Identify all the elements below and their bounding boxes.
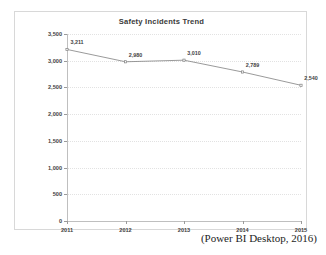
y-axis-tick-label: 2,000 [48,111,62,117]
x-axis-tick [126,221,127,224]
source-caption: (Power BI Desktop, 2016) [201,232,317,244]
x-axis-tick [243,221,244,224]
y-axis-tick-label: 1,000 [48,165,62,171]
series-marker [300,84,302,86]
series-marker [183,59,185,61]
chart-title: Safety Incidents Trend [15,17,308,26]
plot-area: 05001,0001,5002,0002,5003,0003,500 20112… [67,34,301,221]
x-axis-tick-label: 2013 [178,227,190,233]
figure: Safety Incidents Trend 05001,0001,5002,0… [0,0,326,255]
series-marker [124,61,126,63]
series-marker [241,71,243,73]
y-axis-tick-label: 500 [53,191,62,197]
y-axis-tick-label: 1,500 [48,138,62,144]
y-axis-tick-label: 2,500 [48,84,62,90]
x-axis-tick [301,221,302,224]
data-point-label: 2,980 [129,52,143,58]
x-axis-tick [184,221,185,224]
series-polyline [67,49,301,85]
data-point-label: 2,540 [304,75,318,81]
data-point-label: 3,211 [70,39,83,45]
series-markers [66,48,302,86]
series-marker [66,48,68,50]
chart-frame: Safety Incidents Trend 05001,0001,5002,0… [14,11,307,230]
x-axis-tick [67,221,68,224]
data-point-label: 3,010 [187,50,201,56]
y-axis-tick-label: 3,000 [48,58,62,64]
x-axis-tick-label: 2012 [119,227,131,233]
series-line-safety-incidents [67,34,301,221]
y-axis-tick-label: 0 [59,218,62,224]
y-axis-tick-label: 3,500 [48,31,62,37]
x-axis-tick-label: 2011 [61,227,73,233]
data-point-label: 2,789 [246,62,260,68]
